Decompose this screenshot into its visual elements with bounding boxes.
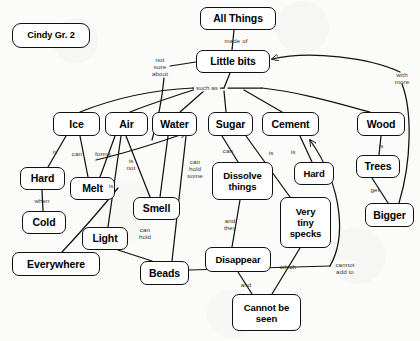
node-hard-ice[interactable]: Hard	[20, 167, 65, 190]
node-ice[interactable]: Ice	[53, 112, 100, 136]
edge-water-smell	[160, 136, 168, 197]
edge-bigger-littlebits	[399, 84, 409, 203]
node-little-bits[interactable]: Little bits	[196, 50, 270, 73]
edge-sugar-dissolve	[222, 136, 238, 162]
edge-disappear-cannotseen	[238, 272, 252, 294]
node-melt[interactable]: Melt	[70, 177, 115, 200]
node-hard-cement[interactable]: Hard	[294, 162, 334, 185]
node-cement[interactable]: Cement	[262, 112, 319, 136]
edge-ice-hard	[48, 136, 66, 167]
node-cannot-be-seen[interactable]: Cannot be seen	[232, 294, 301, 331]
edge-withmore-to-littlebits	[272, 55, 400, 72]
concept-map-canvas: Cindy Gr. 2 All Things Little bits Ice A…	[0, 0, 420, 341]
edge-trees-bigger	[372, 178, 388, 203]
edge-air-smell	[126, 136, 150, 197]
edge-hub-air	[130, 89, 196, 112]
edge-ice-melt	[80, 136, 88, 177]
node-disappear[interactable]: Disappear	[205, 247, 271, 272]
node-author-tag[interactable]: Cindy Gr. 2	[12, 23, 90, 48]
edge-littlebits-hub	[224, 73, 230, 88]
edge-hub-cement	[244, 90, 282, 112]
node-beads[interactable]: Beads	[140, 261, 189, 285]
node-all-things[interactable]: All Things	[200, 7, 276, 30]
node-wood[interactable]: Wood	[357, 112, 405, 136]
node-dissolve-things[interactable]: Dissolve things	[212, 162, 273, 200]
node-trees[interactable]: Trees	[356, 155, 400, 178]
edge-hub-wood	[262, 88, 370, 112]
edge-hard-cold	[42, 190, 43, 211]
node-light[interactable]: Light	[82, 227, 128, 250]
edge-allthings-littlebits	[232, 30, 234, 50]
node-water[interactable]: Water	[152, 112, 197, 136]
edge-littlebits-notsure	[170, 62, 196, 66]
node-everywhere[interactable]: Everywhere	[12, 252, 100, 276]
node-smell[interactable]: Smell	[133, 197, 180, 220]
node-very-tiny-specks[interactable]: Very tiny specks	[280, 197, 331, 248]
edge-hub-ice	[80, 88, 193, 112]
edge-into-water-arrow	[96, 133, 186, 160]
edge-hub-sugar	[224, 91, 226, 112]
edge-dissolve-disappear	[232, 200, 240, 247]
node-sugar[interactable]: Sugar	[208, 112, 253, 136]
node-cold[interactable]: Cold	[22, 211, 66, 234]
edge-specks-cannotseen	[272, 248, 300, 294]
edge-air-melt	[100, 136, 115, 177]
node-bigger[interactable]: Bigger	[365, 203, 414, 227]
node-air[interactable]: Air	[105, 112, 148, 136]
edge-wood-trees	[379, 136, 381, 155]
edge-light-beads	[118, 250, 152, 261]
